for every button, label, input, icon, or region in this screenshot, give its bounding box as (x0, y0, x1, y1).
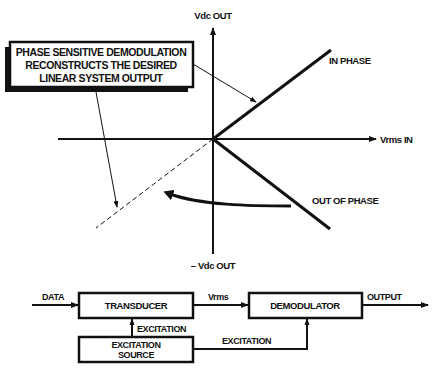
data-label: DATA (42, 292, 65, 302)
y-axis-top-label: Vdc OUT (194, 10, 232, 21)
vrms-label: Vrms (208, 292, 229, 302)
callout-leader-in-phase (193, 64, 256, 102)
y-axis-bottom-label: – Vdc OUT (191, 260, 236, 271)
callout-leader-dashed (96, 92, 117, 207)
callout-line-3: LINEAR SYSTEM OUTPUT (39, 72, 163, 84)
inversion-arrow (170, 194, 291, 206)
excitation-source-label-2: SOURCE (118, 350, 155, 360)
excitation-source-label-1: EXCITATION (111, 340, 160, 350)
out-of-phase-line (213, 139, 330, 229)
callout-line-2: RECONSTRUCTS THE DESIRED (25, 59, 177, 71)
phase-demodulation-diagram: PHASE SENSITIVE DEMODULATION RECONSTRUCT… (0, 0, 438, 378)
phase-graph: PHASE SENSITIVE DEMODULATION RECONSTRUCT… (5, 10, 413, 271)
reconstructed-dashed-line (96, 139, 213, 228)
transducer-label: TRANSDUCER (105, 300, 168, 311)
output-label: OUTPUT (367, 292, 403, 302)
demodulator-label: DEMODULATOR (270, 300, 340, 311)
out-of-phase-label: OUT OF PHASE (312, 195, 379, 206)
block-diagram: DATA TRANSDUCER Vrms DEMODULATOR OUTPUT … (32, 292, 428, 362)
excitation-to-demodulator-label: EXCITATION (222, 336, 271, 346)
excitation-to-transducer-label: EXCITATION (137, 324, 186, 334)
in-phase-line (213, 50, 331, 139)
callout-line-1: PHASE SENSITIVE DEMODULATION (16, 46, 187, 58)
x-axis-label: Vrms IN (380, 134, 413, 145)
in-phase-label: IN PHASE (329, 55, 371, 66)
